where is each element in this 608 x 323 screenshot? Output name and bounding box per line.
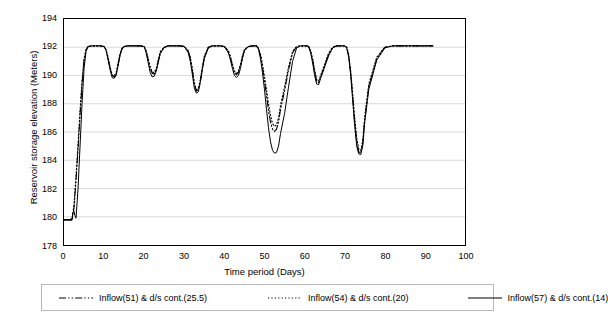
- series-lines: [64, 46, 433, 220]
- x-tick-label: 10: [88, 252, 118, 261]
- plot-area: [63, 18, 466, 246]
- legend-item-2[interactable]: Inflow(54) & d/s cont.(20): [267, 293, 409, 303]
- series-line-2: [64, 46, 433, 220]
- x-tick-label: 70: [330, 252, 360, 261]
- legend-label: Inflow(54) & d/s cont.(20): [308, 293, 409, 303]
- x-tick-label: 20: [129, 252, 159, 261]
- legend-item-3[interactable]: Inflow(57) & d/s cont.(14): [467, 293, 608, 303]
- x-tick-label: 0: [48, 252, 78, 261]
- x-axis-title: Time period (Days): [63, 266, 466, 277]
- plot-svg: [64, 19, 465, 245]
- legend-line-swatch: [58, 294, 94, 302]
- legend-label: Inflow(51) & d/s cont.(25.5): [99, 293, 207, 303]
- legend-line-swatch: [267, 294, 303, 302]
- x-tick-label: 40: [209, 252, 239, 261]
- gridlines: [64, 47, 465, 217]
- chart-legend: Inflow(51) & d/s cont.(25.5)Inflow(54) &…: [41, 284, 494, 311]
- y-axis-title-wrap: Reservoir storage elevation (Meters): [8, 10, 28, 250]
- x-tick-label: 80: [370, 252, 400, 261]
- y-axis-title: Reservoir storage elevation (Meters): [28, 8, 39, 248]
- series-line-3: [64, 46, 433, 220]
- legend-item-1[interactable]: Inflow(51) & d/s cont.(25.5): [58, 293, 207, 303]
- series-line-1: [64, 46, 433, 220]
- x-tick-label: 100: [451, 252, 481, 261]
- x-tick-label: 60: [290, 252, 320, 261]
- legend-line-swatch: [467, 294, 503, 302]
- x-tick-label: 90: [411, 252, 441, 261]
- legend-label: Inflow(57) & d/s cont.(14): [508, 293, 608, 303]
- x-tick-label: 50: [250, 252, 280, 261]
- x-tick-label: 30: [169, 252, 199, 261]
